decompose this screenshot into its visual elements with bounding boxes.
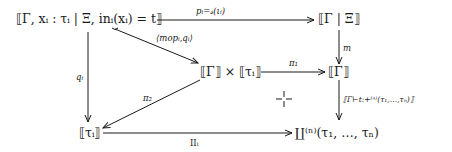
node-top-left: ⟦Γ, xᵢ : τᵢ | Ξ, inᵢ(xᵢ) = t⟧	[16, 12, 162, 26]
label-right-vertical: ⟦Γ⊢t:+⁽ⁿ⁾(τ₁,…,τₙ)⟧	[343, 95, 414, 105]
label-pi2: π₂	[143, 93, 152, 103]
node-bottom-right: ∐⁽ⁿ⁾(τ₁, …, τₙ)	[295, 126, 379, 140]
node-middle-right: ⟦Γ⟧	[328, 65, 349, 79]
pullback-marker-icon	[276, 91, 292, 107]
node-middle: ⟦Γ⟧ × ⟦τᵢ⟧	[200, 65, 261, 79]
node-top-right: ⟦Γ | Ξ⟧	[318, 12, 360, 26]
label-q: qᵢ	[76, 72, 83, 82]
label-m: m	[343, 43, 351, 53]
label-diagonal: ⟨mopᵢ,qᵢ⟩	[156, 33, 193, 43]
label-bottom: IIᵢ	[190, 138, 198, 148]
label-top-arrow: pᵢ=𝓈(ιᵢ)	[196, 6, 225, 16]
node-bottom-left: ⟦τᵢ⟧	[79, 126, 100, 140]
label-pi1: π₁	[289, 58, 298, 68]
arrow-pi2	[103, 80, 200, 128]
